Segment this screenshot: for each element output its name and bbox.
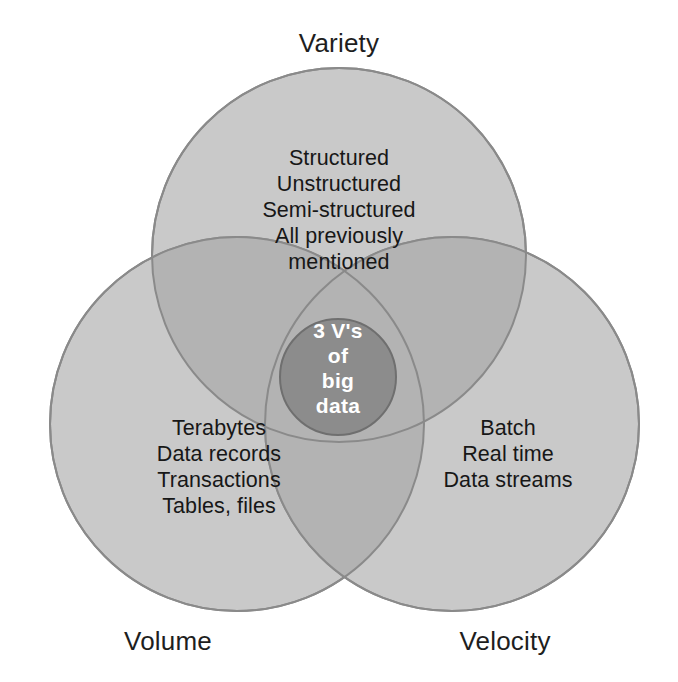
center-line: of (283, 343, 393, 368)
item-line: Batch (404, 415, 612, 441)
set-label-volume: Volume (88, 626, 248, 657)
set-label-velocity: Velocity (425, 626, 585, 657)
set-items-velocity: Batch Real time Data streams (404, 415, 612, 493)
item-line: Real time (404, 441, 612, 467)
item-line: Tables, files (96, 493, 342, 519)
item-line: Unstructured (219, 171, 459, 197)
item-line: Data streams (404, 467, 612, 493)
center-intersection-label: 3 V's of big data (283, 318, 393, 418)
center-line: data (283, 393, 393, 418)
center-line: 3 V's (283, 318, 393, 343)
item-line: Semi-structured (219, 197, 459, 223)
item-line: Data records (96, 441, 342, 467)
item-line: Terabytes (96, 415, 342, 441)
item-line: Transactions (96, 467, 342, 493)
item-line: All previously (219, 223, 459, 249)
center-line: big (283, 368, 393, 393)
set-items-volume: Terabytes Data records Transactions Tabl… (96, 415, 342, 519)
big-data-venn-diagram: Variety Volume Velocity Structured Unstr… (0, 0, 678, 682)
set-items-variety: Structured Unstructured Semi-structured … (219, 145, 459, 275)
item-line: Structured (219, 145, 459, 171)
set-label-variety: Variety (0, 28, 678, 59)
item-line: mentioned (219, 249, 459, 275)
